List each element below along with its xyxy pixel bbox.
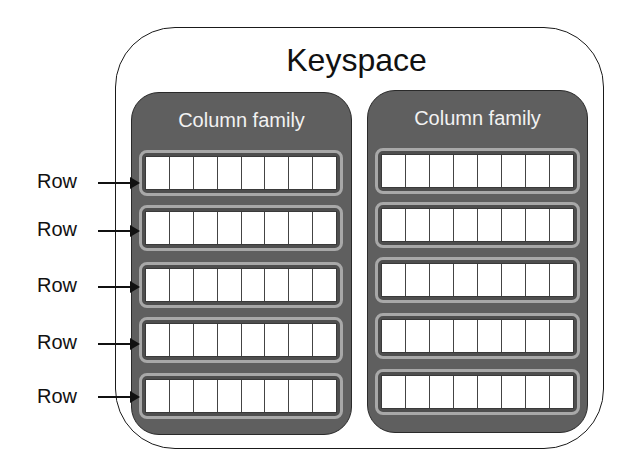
cell xyxy=(194,380,218,412)
cell xyxy=(430,376,454,408)
cell-strip xyxy=(145,156,337,190)
cell xyxy=(146,157,170,189)
cell xyxy=(313,380,336,412)
cell xyxy=(430,155,454,187)
cell-strip xyxy=(145,211,337,245)
row-left-5 xyxy=(139,373,343,419)
cell xyxy=(265,324,289,356)
cell xyxy=(478,209,502,241)
cell xyxy=(313,269,336,301)
cell xyxy=(406,376,430,408)
cell xyxy=(170,212,194,244)
cell xyxy=(526,376,550,408)
cell xyxy=(526,320,550,352)
cell xyxy=(313,212,336,244)
cell-strip xyxy=(381,154,574,188)
arrow-right-icon xyxy=(98,343,132,345)
cell xyxy=(550,209,573,241)
cell xyxy=(170,380,194,412)
row-left-4 xyxy=(139,317,343,363)
cell xyxy=(194,269,218,301)
cell xyxy=(242,269,266,301)
cell xyxy=(242,324,266,356)
cell xyxy=(170,324,194,356)
cell xyxy=(478,155,502,187)
cell xyxy=(526,155,550,187)
cell xyxy=(146,212,170,244)
cell xyxy=(382,155,406,187)
cell xyxy=(454,376,478,408)
arrow-right-icon xyxy=(98,396,132,398)
cell xyxy=(289,157,313,189)
cell xyxy=(454,155,478,187)
cell xyxy=(406,155,430,187)
cell xyxy=(218,324,242,356)
cell xyxy=(265,380,289,412)
row-left-1 xyxy=(139,150,343,196)
cell xyxy=(550,155,573,187)
keyspace-title: Keyspace xyxy=(0,40,638,80)
cell-strip xyxy=(381,263,574,297)
cell-strip xyxy=(381,208,574,242)
cell xyxy=(406,264,430,296)
cell xyxy=(454,264,478,296)
cell xyxy=(265,269,289,301)
cell xyxy=(550,264,573,296)
arrow-right-icon xyxy=(98,182,132,184)
cell xyxy=(502,376,526,408)
cell xyxy=(289,380,313,412)
cell-strip xyxy=(145,268,337,302)
row-left-3 xyxy=(139,262,343,308)
cell xyxy=(550,320,573,352)
cell xyxy=(170,269,194,301)
column-family-title: Column family xyxy=(132,107,351,133)
cell xyxy=(382,209,406,241)
cell xyxy=(382,320,406,352)
cell xyxy=(406,320,430,352)
cell xyxy=(430,320,454,352)
cell xyxy=(170,157,194,189)
cell xyxy=(454,320,478,352)
cell xyxy=(146,269,170,301)
arrow-right-icon xyxy=(98,230,132,232)
row-right-4 xyxy=(375,313,580,359)
cell xyxy=(430,209,454,241)
cell-strip xyxy=(381,319,574,353)
row-label: Row xyxy=(37,169,77,193)
cell xyxy=(289,324,313,356)
cell xyxy=(382,376,406,408)
cell xyxy=(265,157,289,189)
cell xyxy=(289,212,313,244)
cell xyxy=(242,380,266,412)
cell xyxy=(454,209,478,241)
cell xyxy=(382,264,406,296)
cell xyxy=(430,264,454,296)
cell-strip xyxy=(381,375,574,409)
cell-strip xyxy=(145,379,337,413)
row-label: Row xyxy=(37,217,77,241)
cell xyxy=(265,212,289,244)
row-right-5 xyxy=(375,369,580,415)
row-label: Row xyxy=(37,330,77,354)
cell xyxy=(478,320,502,352)
cell xyxy=(218,380,242,412)
cell xyxy=(478,264,502,296)
cell xyxy=(313,324,336,356)
cell xyxy=(550,376,573,408)
cell-strip xyxy=(145,323,337,357)
cell xyxy=(526,209,550,241)
column-family-title: Column family xyxy=(368,105,587,131)
row-right-2 xyxy=(375,202,580,248)
cell xyxy=(194,212,218,244)
cell xyxy=(218,269,242,301)
cell xyxy=(502,264,526,296)
cell xyxy=(242,157,266,189)
cell xyxy=(218,212,242,244)
row-right-1 xyxy=(375,148,580,194)
row-label: Row xyxy=(37,384,77,408)
row-right-3 xyxy=(375,257,580,303)
cell xyxy=(502,320,526,352)
arrow-right-icon xyxy=(98,286,132,288)
cell xyxy=(242,212,266,244)
cell xyxy=(502,209,526,241)
